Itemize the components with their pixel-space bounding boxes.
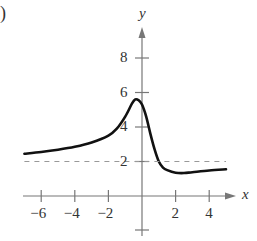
x-axis-label: x [242, 187, 249, 202]
y-tick-label: 2 [120, 154, 128, 169]
axes [23, 27, 236, 236]
y-tick-label: 4 [120, 119, 128, 134]
x-tick-label: 2 [172, 206, 180, 221]
y-axis-label: y [139, 6, 146, 21]
y-tick-label: 6 [120, 85, 128, 100]
x-axis-arrow-icon [225, 193, 236, 200]
x-tick-label: −2 [97, 206, 113, 221]
x-tick-label: −6 [30, 206, 46, 221]
x-tick-label: 4 [205, 206, 213, 221]
y-axis-arrow-icon [139, 27, 146, 38]
y-tick-label: 8 [120, 50, 128, 65]
x-tick-label: −4 [64, 206, 80, 221]
